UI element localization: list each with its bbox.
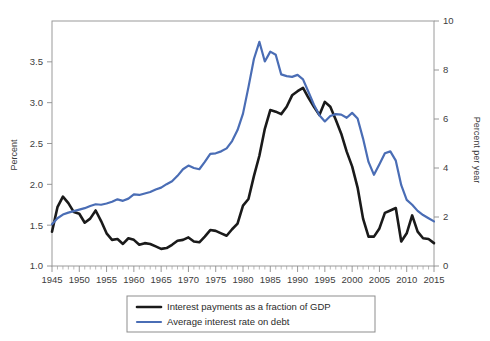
y-tick-label: 3.5	[30, 56, 43, 67]
x-tick-label: 1955	[96, 274, 117, 285]
y2-tick-label: 6	[443, 113, 448, 124]
y-tick-label: 2.5	[30, 138, 43, 149]
figure-background	[0, 0, 490, 341]
x-tick-label: 1990	[287, 274, 308, 285]
x-tick-label: 2015	[423, 274, 444, 285]
x-tick-label: 1995	[314, 274, 335, 285]
y-axis-right-title: Percent per year	[472, 117, 482, 184]
x-tick-label: 1945	[41, 274, 62, 285]
y2-tick-label: 8	[443, 64, 448, 75]
x-tick-label: 2010	[396, 274, 417, 285]
x-tick-label: 1985	[260, 274, 281, 285]
legend-label-0: Interest payments as a fraction of GDP	[167, 301, 331, 312]
x-tick-label: 1950	[69, 274, 90, 285]
legend-label-1: Average interest rate on debt	[167, 316, 290, 327]
x-tick-label: 1965	[151, 274, 172, 285]
y-tick-label: 1.0	[30, 260, 43, 271]
x-tick-label: 1980	[232, 274, 253, 285]
x-tick-label: 1960	[123, 274, 144, 285]
y2-tick-label: 0	[443, 260, 448, 271]
chart-figure: 1945195019551960196519701975198019851990…	[0, 0, 490, 341]
y2-tick-label: 10	[443, 15, 454, 26]
x-axis-tick-labels: 1945195019551960196519701975198019851990…	[41, 274, 444, 285]
x-tick-label: 1970	[178, 274, 199, 285]
y-tick-label: 3.0	[30, 97, 43, 108]
x-tick-label: 2005	[369, 274, 390, 285]
chart-legend: Interest payments as a fraction of GDPAv…	[127, 296, 375, 332]
y2-tick-label: 4	[443, 162, 448, 173]
y2-tick-label: 2	[443, 211, 448, 222]
y-tick-label: 1.5	[30, 220, 43, 231]
x-tick-label: 1975	[205, 274, 226, 285]
y-axis-left-title: Percent	[9, 139, 19, 171]
y-tick-label: 2.0	[30, 179, 43, 190]
x-tick-label: 2000	[342, 274, 363, 285]
